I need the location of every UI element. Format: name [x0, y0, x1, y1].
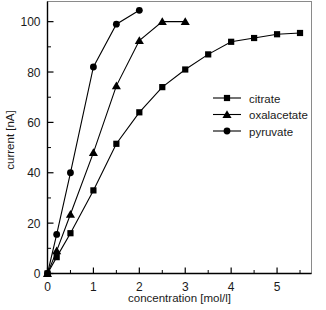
legend-label-oxalacetate: oxalacetate	[249, 109, 308, 121]
data-point-citrate	[136, 109, 142, 115]
legend-marker-citrate	[224, 95, 230, 101]
chart-figure: 012345020406080100 citrateoxalacetatepyr…	[0, 0, 326, 310]
data-point-citrate	[90, 187, 96, 193]
data-point-pyruvate	[90, 64, 97, 71]
y-tick-label: 20	[27, 217, 41, 231]
data-point-pyruvate	[53, 231, 60, 238]
y-tick-label: 100	[20, 15, 40, 29]
legend-marker-pyruvate	[224, 128, 231, 135]
chart-canvas: 012345020406080100 citrateoxalacetatepyr…	[0, 0, 326, 310]
y-tick-label: 0	[34, 267, 41, 281]
data-point-citrate	[297, 30, 303, 36]
y-tick-label: 60	[27, 116, 41, 130]
data-point-citrate	[182, 66, 188, 72]
legend-label-pyruvate: pyruvate	[249, 126, 293, 138]
data-point-pyruvate	[136, 7, 143, 14]
x-tick-label: 5	[274, 280, 281, 294]
data-point-citrate	[251, 35, 257, 41]
data-point-citrate	[274, 31, 280, 37]
data-point-citrate	[113, 141, 119, 147]
y-axis-title: current [nA]	[4, 110, 16, 169]
data-point-pyruvate	[113, 21, 120, 28]
data-point-pyruvate	[67, 169, 74, 176]
x-tick-label: 0	[44, 280, 51, 294]
data-point-citrate	[228, 39, 234, 45]
data-point-citrate	[67, 230, 73, 236]
y-tick-label: 40	[27, 166, 41, 180]
data-point-citrate	[159, 84, 165, 90]
y-tick-label: 80	[27, 66, 41, 80]
legend-label-citrate: citrate	[249, 93, 280, 105]
data-point-pyruvate	[44, 270, 51, 277]
data-point-citrate	[205, 51, 211, 57]
x-tick-label: 1	[90, 280, 97, 294]
x-axis-title: concentration [mol/l]	[128, 292, 231, 304]
